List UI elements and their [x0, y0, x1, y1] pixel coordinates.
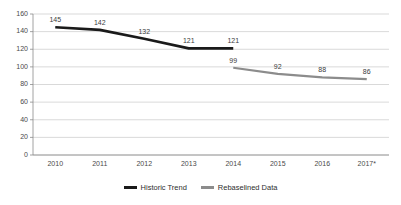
data-point-label: 121 [183, 37, 195, 44]
y-axis-tick-label: 0 [24, 151, 28, 158]
data-point-label: 92 [274, 63, 282, 70]
data-point-label: 145 [49, 16, 61, 23]
data-point-label: 86 [363, 68, 371, 75]
legend-swatch-historic-trend [124, 186, 137, 189]
y-axis-tick-label: 140 [16, 27, 28, 34]
x-axis-tick-label: 2013 [181, 160, 197, 167]
x-axis-tick-label: 2017* [358, 160, 377, 167]
x-axis-tick-label: 2015 [270, 160, 286, 167]
y-axis-tick-label: 120 [16, 45, 28, 52]
y-axis-tick-labels: 020406080100120140160 [16, 10, 28, 158]
x-axis-tick-label: 2016 [314, 160, 330, 167]
data-point-label: 99 [229, 57, 237, 64]
x-axis-tick-labels: 20102011201220132014201520162017* [47, 160, 376, 167]
y-axis-tick-label: 80 [20, 80, 28, 87]
y-axis-tick-label: 20 [20, 133, 28, 140]
chart-legend: Historic Trend Rebaselined Data [0, 183, 401, 192]
legend-swatch-rebaselined-data [201, 186, 214, 189]
data-point-label: 142 [94, 19, 106, 26]
y-axis-tick-label: 40 [20, 116, 28, 123]
line-chart: 020406080100120140160 201020112012201320… [0, 0, 401, 205]
x-axis-tick-label: 2012 [136, 160, 152, 167]
data-point-label: 121 [227, 37, 239, 44]
plot-area: 020406080100120140160 201020112012201320… [0, 0, 401, 175]
x-axis-tick-label: 2010 [47, 160, 63, 167]
y-axis-tick-label: 100 [16, 63, 28, 70]
legend-item-historic-trend: Historic Trend [124, 183, 187, 192]
data-point-label: 132 [138, 28, 150, 35]
y-axis-tick-label: 160 [16, 10, 28, 17]
y-axis-tick-label: 60 [20, 98, 28, 105]
series-line-rebaselined-data [233, 68, 367, 79]
gridlines-group [30, 14, 389, 155]
data-point-label: 88 [318, 66, 326, 73]
legend-label-rebaselined-data: Rebaselined Data [218, 183, 278, 192]
x-axis-tick-label: 2014 [225, 160, 241, 167]
x-axis-tick-label: 2011 [92, 160, 107, 167]
chart-canvas: 020406080100120140160 201020112012201320… [0, 0, 401, 175]
data-point-labels-group: 14514213212112199928886 [49, 16, 370, 75]
legend-item-rebaselined-data: Rebaselined Data [201, 183, 278, 192]
legend-label-historic-trend: Historic Trend [141, 183, 187, 192]
